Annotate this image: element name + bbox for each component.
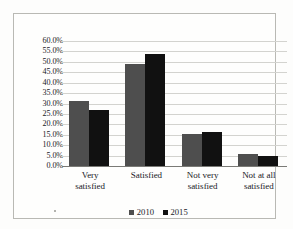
bar-group bbox=[118, 41, 174, 166]
bar-2010-satisfied bbox=[125, 64, 145, 166]
bar-group bbox=[175, 41, 231, 166]
bar-2010-not-very-satisfied bbox=[182, 134, 202, 166]
y-axis-tick-label: 10.0% bbox=[43, 141, 63, 149]
bar-group bbox=[62, 41, 118, 166]
bar-2010-not-at-all-satisfied bbox=[238, 154, 258, 166]
y-axis-tick-label: 40.0% bbox=[43, 79, 63, 87]
y-axis-tick-label: 30.0% bbox=[43, 99, 63, 107]
bars-layer bbox=[62, 41, 287, 166]
axis-line-zero bbox=[62, 166, 287, 167]
legend-swatch-icon bbox=[129, 210, 134, 215]
legend-label: 2010 bbox=[137, 208, 154, 217]
bar-group bbox=[231, 41, 287, 166]
legend-swatch-icon bbox=[163, 210, 168, 215]
x-axis-tick-label-line: satisfied bbox=[231, 181, 287, 192]
legend-entry-2010[interactable]: 2010 bbox=[129, 208, 154, 217]
x-axis-tick-label-line: satisfied bbox=[62, 181, 118, 192]
x-axis: VerysatisfiedSatisfiedNot verysatisfiedN… bbox=[62, 170, 287, 204]
chart-legend: 20102015 bbox=[27, 208, 290, 217]
y-axis-tick-label: 15.0% bbox=[43, 131, 63, 139]
bar-2015-not-at-all-satisfied bbox=[258, 156, 278, 166]
y-axis-tick-label: 5.0% bbox=[47, 152, 63, 160]
bar-2010-very-satisfied bbox=[69, 101, 89, 166]
y-axis-tick-label: 35.0% bbox=[43, 89, 63, 97]
x-axis-tick-label: Not verysatisfied bbox=[175, 170, 231, 192]
y-axis-tick-label: 0.0% bbox=[47, 162, 63, 170]
legend-label: 2015 bbox=[171, 208, 188, 217]
x-axis-tick-label-line: Satisfied bbox=[118, 170, 174, 181]
x-axis-tick-label: Not at allsatisfied bbox=[231, 170, 287, 192]
x-axis-tick-label-line: Very bbox=[62, 170, 118, 181]
legend-entry-2015[interactable]: 2015 bbox=[163, 208, 188, 217]
bar-2015-very-satisfied bbox=[89, 110, 109, 166]
x-axis-tick-label: Verysatisfied bbox=[62, 170, 118, 192]
y-axis-tick-label: 45.0% bbox=[43, 68, 63, 76]
x-axis-tick-label-line: satisfied bbox=[175, 181, 231, 192]
y-axis-tick-label: 50.0% bbox=[43, 58, 63, 66]
x-axis-tick-label-line: Not very bbox=[175, 170, 231, 181]
scan-artifact bbox=[54, 210, 56, 212]
y-axis-tick-label: 20.0% bbox=[43, 120, 63, 128]
y-axis: 0.0%5.0%10.0%15.0%20.0%25.0%30.0%35.0%40… bbox=[27, 41, 63, 166]
figure-frame: 0.0%5.0%10.0%15.0%20.0%25.0%30.0%35.0%40… bbox=[13, 13, 276, 219]
y-axis-tick-label: 60.0% bbox=[43, 37, 63, 45]
plot-area bbox=[62, 41, 287, 166]
bar-2015-not-very-satisfied bbox=[202, 132, 222, 166]
bar-2015-satisfied bbox=[145, 54, 165, 167]
x-axis-tick-label-line: Not at all bbox=[231, 170, 287, 181]
y-axis-tick-label: 25.0% bbox=[43, 110, 63, 118]
y-axis-tick-label: 55.0% bbox=[43, 47, 63, 55]
x-axis-tick-label: Satisfied bbox=[118, 170, 174, 181]
bar-chart-figure: 0.0%5.0%10.0%15.0%20.0%25.0%30.0%35.0%40… bbox=[0, 0, 293, 229]
